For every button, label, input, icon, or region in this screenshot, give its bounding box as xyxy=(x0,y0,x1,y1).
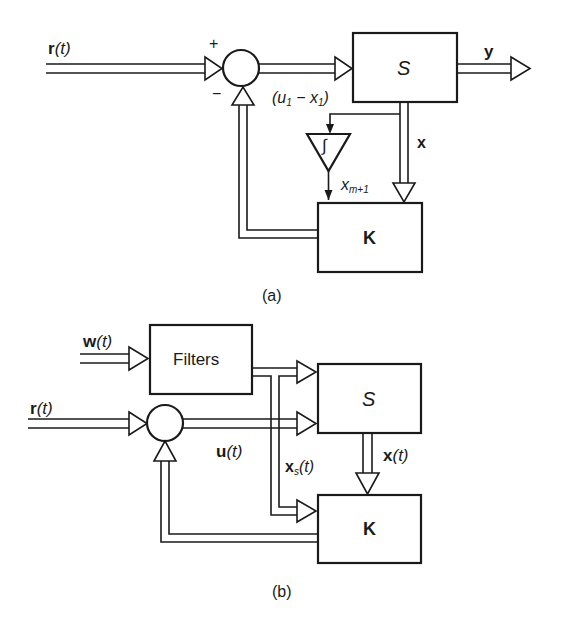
input-symbol: r xyxy=(48,39,55,58)
filter-state-symbol: x xyxy=(285,458,294,475)
control-arg: (t) xyxy=(226,442,242,461)
output-label-y: y xyxy=(484,43,493,60)
plant-label-a: S xyxy=(397,58,410,78)
control-symbol: u xyxy=(216,442,226,461)
filters-label: Filters xyxy=(173,351,219,368)
integrator-symbol: ∫ xyxy=(322,137,327,154)
integrator-out-sub: m+1 xyxy=(349,184,369,195)
input-symbol-b: r xyxy=(30,399,37,418)
disturbance-label-w: w(t) xyxy=(83,333,112,350)
diagram-a xyxy=(46,33,530,272)
error-open: (u xyxy=(272,89,286,106)
input-arg: (t) xyxy=(55,39,71,58)
junction-to-plant-arrow xyxy=(259,57,352,80)
filter-output-arrows xyxy=(252,361,316,522)
integrator-output-line xyxy=(325,171,333,200)
plus-sign: + xyxy=(209,36,218,52)
caption-a: (a) xyxy=(262,288,282,304)
output-arrow-y xyxy=(457,57,530,80)
feedback-arrow-a xyxy=(232,87,318,238)
disturbance-symbol: w xyxy=(83,332,96,351)
state-arrow-x xyxy=(393,102,415,202)
state-label-x-b: x(t) xyxy=(383,447,409,464)
integrator-out-symbol: x xyxy=(341,176,349,193)
summing-junction-a xyxy=(223,50,259,86)
integrator-output-label: xm+1 xyxy=(341,177,369,195)
control-arrow-u xyxy=(183,412,316,435)
state-label-x: x xyxy=(417,135,426,151)
input-arg-b: (t) xyxy=(37,399,53,418)
gain-label-a: K xyxy=(363,229,376,247)
plant-label-b: S xyxy=(362,389,375,409)
error-signal-line xyxy=(326,114,400,134)
filter-state-arg: (t) xyxy=(299,458,314,475)
state-arg-b: (t) xyxy=(392,446,408,465)
integrator-block xyxy=(307,134,350,171)
summing-junction-b xyxy=(147,405,183,441)
filter-state-label-xs: xs(t) xyxy=(285,459,314,477)
input-label-r-b: r(t) xyxy=(30,400,53,417)
minus-sign: − xyxy=(212,86,221,102)
input-label-r: r(t) xyxy=(48,40,71,57)
error-close: ) xyxy=(324,89,329,106)
gain-label-b: K xyxy=(363,520,376,538)
error-mid: − x xyxy=(292,89,318,106)
disturbance-arg: (t) xyxy=(96,332,112,351)
state-arrow-x-b xyxy=(356,433,379,494)
input-arrow-r xyxy=(46,57,222,80)
control-label-u: u(t) xyxy=(216,443,242,460)
error-label: (u1 − x1) xyxy=(272,90,329,108)
caption-b: (b) xyxy=(272,584,292,600)
